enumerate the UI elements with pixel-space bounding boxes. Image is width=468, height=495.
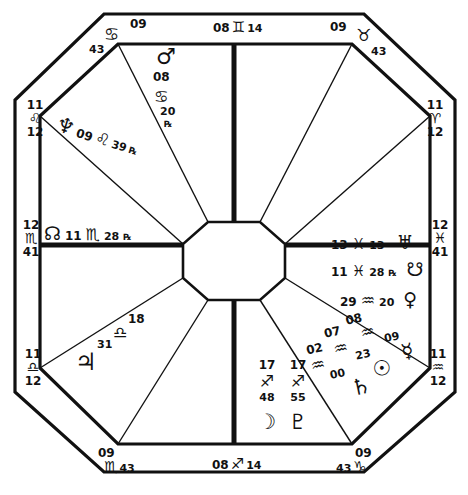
south-node-retrograde-icon: ℞ <box>388 268 396 278</box>
cusp-bottom-right-minute: 43 <box>336 462 351 475</box>
planet-moon: 17 ♐ 48 ☽ <box>253 358 281 434</box>
planet-south-node: 11 ♓ 28 ℞ ☋ <box>331 258 423 280</box>
cusp-left-upper: 11 ♌ 12 <box>22 99 48 138</box>
jupiter-degree: 18 <box>128 312 145 326</box>
uranus-minute: 13 <box>369 239 384 252</box>
mars-sign-icon: ♋ <box>154 87 168 106</box>
planet-pluto: 17 ♐ 55 ♇ <box>284 358 312 434</box>
uranus-degree: 13 <box>331 238 348 252</box>
jupiter-icon: ♃ <box>75 348 97 376</box>
cusp-right-middle-sign-icon: ♓ <box>427 231 453 245</box>
house-spoke-7 <box>285 116 430 244</box>
mars-minute: 20 <box>160 105 175 118</box>
pluto-minute: 55 <box>284 391 312 404</box>
cusp-right-lower: 11 ♒ 12 <box>424 348 452 387</box>
jupiter-minute: 31 <box>97 338 112 351</box>
cusp-top-right-degree: 09 <box>330 18 347 34</box>
cusp-right-upper-sign-icon: ♈ <box>422 111 448 125</box>
south-node-minute: 28 <box>369 266 384 279</box>
cusp-left-upper-sign-icon: ♌ <box>22 111 48 125</box>
pluto-sign-icon: ♐ <box>284 372 312 391</box>
planet-north-node: ☊ 11 ♏ 28 ℞ <box>44 222 131 244</box>
planet-jupiter: 18 ♎ 31 ♃ <box>75 312 171 374</box>
moon-minute: 48 <box>253 391 281 404</box>
mars-degree: 08 <box>153 70 170 84</box>
mercury-icon: ☿ <box>399 338 416 364</box>
north-node-sign-icon: ♏ <box>86 225 100 244</box>
cusp-bottom-right: 43 ♑ <box>336 458 367 476</box>
cusp-left-middle-minute: 41 <box>18 246 44 258</box>
uranus-icon: ♅ <box>396 231 413 253</box>
south-node-degree: 11 <box>331 265 348 279</box>
cusp-top-right-minute: 43 <box>371 42 386 58</box>
cusp-bottom-center-degree: 08 <box>212 458 229 472</box>
cusp-right-middle: 12 ♓ 41 <box>427 219 453 258</box>
cusp-top-left-degree: 09 <box>130 15 147 31</box>
cusp-top-right-sign-icon: ♉ <box>356 27 371 44</box>
pluto-degree: 17 <box>284 358 312 372</box>
planet-uranus: 13 ♓ 13 ♅ <box>331 231 414 253</box>
cusp-right-upper-minute: 12 <box>422 126 448 138</box>
pluto-icon: ♇ <box>284 410 312 434</box>
cusp-bottom-center: 08 ♐ 14 <box>212 455 261 473</box>
cusp-left-upper-minute: 12 <box>22 126 48 138</box>
cusp-top-center-minute: 14 <box>247 22 262 35</box>
north-node-degree: 11 <box>65 229 82 243</box>
center-octagon <box>183 222 285 300</box>
cusp-right-lower-sign-icon: ♒ <box>424 360 452 374</box>
cusp-bottom-left-sign-icon: ♏ <box>104 458 117 476</box>
cusp-top-center: 08 ♊ 14 <box>213 18 262 36</box>
cusp-top-center-sign-icon: ♊ <box>232 18 245 36</box>
moon-icon: ☽ <box>253 410 281 434</box>
cusp-left-lower: 11 ♎ 12 <box>20 348 46 387</box>
venus-degree: 29 <box>340 295 357 309</box>
cusp-top-left-minute: 43 <box>89 40 104 56</box>
cusp-bottom-center-minute: 14 <box>246 459 261 472</box>
mercury-minute: 09 <box>383 329 401 345</box>
cusp-left-lower-minute: 12 <box>20 375 46 387</box>
cusp-right-middle-minute: 41 <box>427 246 453 258</box>
neptune-minute: 39 <box>110 138 128 155</box>
planet-mars: ♂ 08 ♋ 20 ℞ <box>152 44 212 130</box>
moon-degree: 17 <box>253 358 281 372</box>
sun-sign-icon: ♒ <box>332 337 350 359</box>
mars-icon: ♂ <box>156 44 176 69</box>
mars-retrograde-icon: ℞ <box>164 119 172 129</box>
cusp-bottom-center-sign-icon: ♐ <box>231 455 244 473</box>
cusp-right-upper: 11 ♈ 12 <box>422 99 448 138</box>
moon-sign-icon: ♐ <box>253 372 281 391</box>
natal-chart-wheel: 09 ♋ 43 08 ♊ 14 09 ♉ 43 11 ♌ 12 11 ♈ 12 … <box>0 0 468 495</box>
mercury-sign-icon: ♒ <box>359 321 377 343</box>
cusp-left-middle-sign-icon: ♏ <box>18 231 44 245</box>
neptune-sign-icon: ♌ <box>93 128 112 150</box>
cusp-top-center-degree: 08 <box>213 21 230 35</box>
cusp-bottom-left: ♏ 43 <box>104 458 135 476</box>
cusp-bottom-right-sign-icon: ♑ <box>353 458 366 476</box>
north-node-minute: 28 <box>104 230 119 243</box>
venus-sign-icon: ♒ <box>361 291 375 310</box>
uranus-sign-icon: ♓ <box>352 235 365 253</box>
cusp-left-lower-sign-icon: ♎ <box>20 360 46 374</box>
south-node-sign-icon: ♓ <box>352 262 365 280</box>
cusp-top-left-sign-icon: ♋ <box>104 26 119 43</box>
north-node-icon: ☊ <box>44 222 61 244</box>
south-node-icon: ☋ <box>407 258 424 280</box>
cusp-bottom-left-minute: 43 <box>119 462 134 475</box>
north-node-retrograde-icon: ℞ <box>123 232 131 242</box>
cusp-right-lower-minute: 12 <box>424 375 452 387</box>
jupiter-sign-icon: ♎ <box>113 323 127 342</box>
house-spoke-8 <box>260 44 352 222</box>
cusp-left-middle: 12 ♏ 41 <box>18 219 44 258</box>
neptune-degree: 09 <box>74 126 94 144</box>
